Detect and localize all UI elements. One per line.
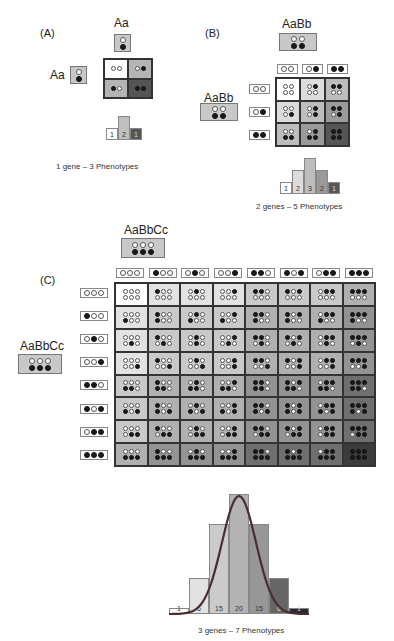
- black-allele-dot: [324, 432, 329, 437]
- black-allele-dot: [232, 364, 237, 369]
- white-allele-dot: [318, 335, 323, 340]
- punnett-cell: [148, 329, 181, 352]
- black-allele-dot: [232, 432, 237, 437]
- white-allele-dot: [212, 106, 218, 112]
- white-allele-dot: [37, 358, 43, 364]
- white-allele-dot: [161, 403, 166, 408]
- allele-row: [253, 295, 270, 300]
- allele-row: [155, 364, 172, 369]
- gamete-label: [247, 268, 275, 278]
- allele-row: [155, 455, 172, 460]
- white-allele-dot: [120, 270, 126, 276]
- allele-row: [331, 106, 342, 111]
- white-allele-dot: [123, 341, 128, 346]
- allele-row: [318, 312, 335, 317]
- white-allele-dot: [167, 318, 172, 323]
- white-allele-dot: [291, 335, 296, 340]
- black-allele-dot: [253, 335, 258, 340]
- white-allele-dot: [185, 270, 191, 276]
- allele-row: [253, 409, 270, 414]
- black-allele-dot: [283, 135, 288, 140]
- black-allele-dot: [331, 135, 336, 140]
- white-allele-dot: [188, 432, 193, 437]
- histogram-bar: 2: [118, 116, 130, 140]
- allele-row: [318, 295, 335, 300]
- allele-row: [318, 318, 335, 323]
- histogram-bar: 2: [292, 170, 304, 194]
- white-allele-dot: [123, 358, 128, 363]
- white-allele-dot: [350, 364, 355, 369]
- gamete-label: [80, 380, 108, 390]
- black-allele-dot: [291, 432, 296, 437]
- black-allele-dot: [253, 132, 259, 138]
- black-allele-dot: [84, 382, 90, 388]
- white-allele-dot: [253, 86, 259, 92]
- black-allele-dot: [167, 409, 172, 414]
- black-allele-dot: [330, 426, 335, 431]
- white-allele-dot: [265, 295, 270, 300]
- black-allele-dot: [232, 380, 237, 385]
- black-allele-dot: [259, 432, 264, 437]
- allele-row: [318, 341, 335, 346]
- white-allele-dot: [289, 84, 294, 89]
- black-allele-dot: [155, 409, 160, 414]
- white-allele-dot: [91, 290, 97, 296]
- white-allele-dot: [167, 386, 172, 391]
- white-allele-dot: [135, 312, 140, 317]
- allele-row: [76, 76, 82, 82]
- black-allele-dot: [167, 455, 172, 460]
- allele-row: [318, 449, 335, 454]
- white-allele-dot: [297, 318, 302, 323]
- white-allele-dot: [337, 90, 342, 95]
- black-allele-dot: [76, 76, 82, 82]
- allele-row: [29, 365, 51, 371]
- black-allele-dot: [362, 432, 367, 437]
- punnett-cell: [115, 397, 148, 420]
- allele-row: [220, 409, 237, 414]
- white-allele-dot: [200, 358, 205, 363]
- black-allele-dot: [350, 426, 355, 431]
- black-allele-dot: [98, 429, 104, 435]
- allele-row: [188, 386, 205, 391]
- allele-row: [111, 66, 122, 71]
- black-allele-dot: [297, 455, 302, 460]
- black-allele-dot: [285, 312, 290, 317]
- black-allele-dot: [232, 409, 237, 414]
- punnett-cell: [180, 352, 213, 375]
- allele-row: [350, 289, 367, 294]
- punnett-cell: [180, 283, 213, 306]
- white-allele-dot: [324, 364, 329, 369]
- white-allele-dot: [265, 403, 270, 408]
- allele-row: [155, 449, 172, 454]
- black-allele-dot: [84, 406, 90, 412]
- white-allele-dot: [129, 426, 134, 431]
- white-allele-dot: [161, 358, 166, 363]
- allele-row: [188, 318, 205, 323]
- black-allele-dot: [297, 312, 302, 317]
- panel-b-label: (B): [205, 27, 220, 39]
- black-allele-dot: [194, 312, 199, 317]
- black-allele-dot: [259, 386, 264, 391]
- gamete-label: [149, 268, 177, 278]
- black-allele-dot: [349, 270, 355, 276]
- white-allele-dot: [188, 312, 193, 317]
- white-allele-dot: [226, 289, 231, 294]
- punnett-cell: [148, 306, 181, 329]
- black-allele-dot: [194, 358, 199, 363]
- white-allele-dot: [129, 403, 134, 408]
- black-allele-dot: [155, 318, 160, 323]
- black-allele-dot: [259, 341, 264, 346]
- white-allele-dot: [220, 432, 225, 437]
- black-allele-dot: [324, 335, 329, 340]
- allele-row: [253, 289, 270, 294]
- black-allele-dot: [155, 449, 160, 454]
- white-allele-dot: [226, 312, 231, 317]
- black-allele-dot: [350, 358, 355, 363]
- black-allele-dot: [141, 66, 146, 71]
- allele-row: [188, 289, 205, 294]
- allele-row: [331, 135, 342, 140]
- allele-row: [155, 386, 172, 391]
- allele-row: [29, 358, 51, 364]
- white-allele-dot: [253, 364, 258, 369]
- white-allele-dot: [123, 335, 128, 340]
